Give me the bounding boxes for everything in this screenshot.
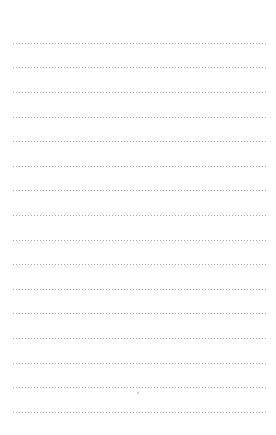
dotted-rule-line <box>12 289 266 290</box>
dotted-rule-line <box>12 215 266 216</box>
dotted-rule-line <box>12 412 266 413</box>
dotted-rule-line <box>12 92 266 93</box>
dotted-rule-line <box>12 190 266 191</box>
dotted-rule-line <box>12 117 266 118</box>
dotted-rule-line <box>12 240 266 241</box>
dotted-rule-line <box>12 338 266 339</box>
dotted-rule-line <box>12 141 266 142</box>
dotted-rule-line <box>12 387 266 388</box>
dotted-rule-line <box>12 67 266 68</box>
dotted-rule-line <box>12 264 266 265</box>
dotted-rule-line <box>12 43 266 44</box>
dotted-rule-line <box>12 313 266 314</box>
dotted-rule-line <box>12 166 266 167</box>
dotted-rule-line <box>12 363 266 364</box>
lined-paper-page <box>0 0 276 435</box>
stray-mark <box>137 392 139 394</box>
